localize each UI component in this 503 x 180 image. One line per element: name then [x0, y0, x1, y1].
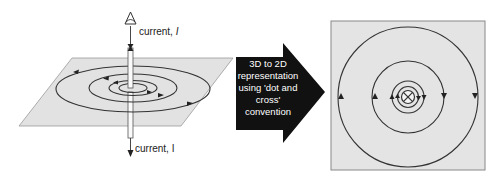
arrow-caption-line-3: using 'dot and	[236, 82, 300, 94]
arrow-caption-line-1: 3D to 2D	[236, 58, 300, 70]
arrow-caption-line-2: representation	[236, 70, 300, 82]
arrow-caption: 3D to 2D representation using 'dot and c…	[236, 58, 300, 118]
current-label-top-text: current,	[139, 26, 176, 37]
current-label-bottom: current, I	[135, 144, 174, 154]
arrow-caption-line-5: convention	[236, 106, 300, 118]
current-symbol-italic: I	[176, 26, 179, 37]
arrow-caption-line-4: cross'	[236, 94, 300, 106]
current-label-top: current, I	[139, 27, 178, 37]
panel-2d	[331, 21, 485, 170]
cross-in-circle-icon	[402, 91, 415, 104]
